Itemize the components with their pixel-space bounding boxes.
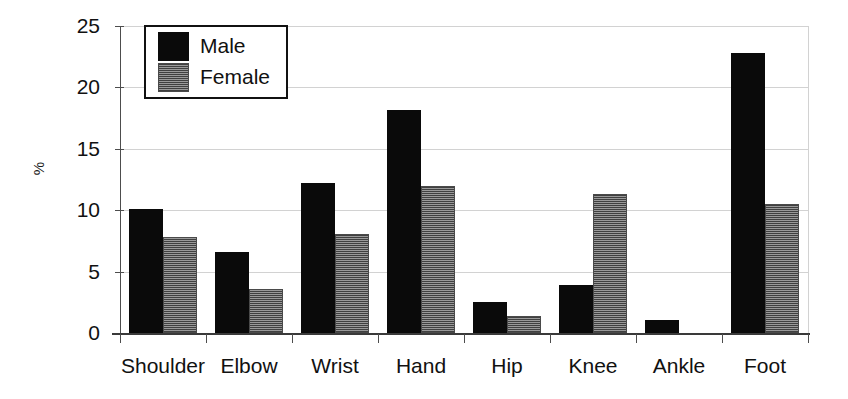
y-axis-title: % bbox=[30, 149, 47, 189]
y-tick-label: 5 bbox=[54, 261, 100, 282]
bar-group bbox=[636, 26, 722, 333]
bar-chart: % 0510152025 ShoulderElbowWristHandHipKn… bbox=[0, 0, 848, 399]
x-tick-mark bbox=[120, 334, 121, 343]
x-tick-label-hip: Hip bbox=[464, 355, 550, 376]
x-tick-mark bbox=[722, 334, 723, 343]
bar-group bbox=[464, 26, 550, 333]
bar-group bbox=[292, 26, 378, 333]
legend-label-female: Female bbox=[200, 65, 270, 89]
x-tick-label-knee: Knee bbox=[550, 355, 636, 376]
y-tick-label: 20 bbox=[54, 76, 100, 97]
bar-group bbox=[550, 26, 636, 333]
legend: Male Female bbox=[144, 25, 288, 99]
gray-hatched-square-icon bbox=[158, 63, 189, 92]
bar-elbow-female bbox=[249, 289, 283, 333]
bar-foot-male bbox=[731, 53, 765, 333]
bar-group bbox=[722, 26, 808, 333]
bar-shoulder-male bbox=[129, 209, 163, 333]
legend-label-male: Male bbox=[200, 34, 246, 58]
x-axis-line bbox=[112, 333, 810, 335]
x-tick-mark bbox=[378, 334, 379, 343]
x-tick-mark bbox=[292, 334, 293, 343]
bar-foot-female bbox=[765, 204, 799, 333]
bar-hip-male bbox=[473, 302, 507, 333]
x-tick-mark bbox=[206, 334, 207, 343]
x-tick-mark bbox=[550, 334, 551, 343]
x-tick-label-foot: Foot bbox=[722, 355, 808, 376]
bar-elbow-male bbox=[215, 252, 249, 333]
bar-wrist-male bbox=[301, 183, 335, 333]
bar-knee-female bbox=[593, 194, 627, 333]
x-tick-label-shoulder: Shoulder bbox=[120, 355, 206, 376]
x-tick-label-elbow: Elbow bbox=[206, 355, 292, 376]
bar-hand-male bbox=[387, 110, 421, 333]
x-tick-mark bbox=[636, 334, 637, 343]
x-tick-mark bbox=[808, 334, 809, 343]
bar-group bbox=[378, 26, 464, 333]
bar-hand-female bbox=[421, 186, 455, 333]
y-tick-label: 0 bbox=[54, 322, 100, 343]
y-tick-label: 25 bbox=[54, 15, 100, 36]
y-tick-label: 10 bbox=[54, 199, 100, 220]
bar-hip-female bbox=[507, 316, 541, 333]
black-square-icon bbox=[158, 32, 189, 61]
bar-ankle-male bbox=[645, 320, 679, 334]
x-tick-mark bbox=[464, 334, 465, 343]
bar-shoulder-female bbox=[163, 237, 197, 333]
bar-wrist-female bbox=[335, 234, 369, 333]
x-tick-label-ankle: Ankle bbox=[636, 355, 722, 376]
x-tick-label-hand: Hand bbox=[378, 355, 464, 376]
x-tick-label-wrist: Wrist bbox=[292, 355, 378, 376]
y-tick-label: 15 bbox=[54, 138, 100, 159]
plot-right-border bbox=[808, 26, 809, 333]
bar-knee-male bbox=[559, 285, 593, 333]
